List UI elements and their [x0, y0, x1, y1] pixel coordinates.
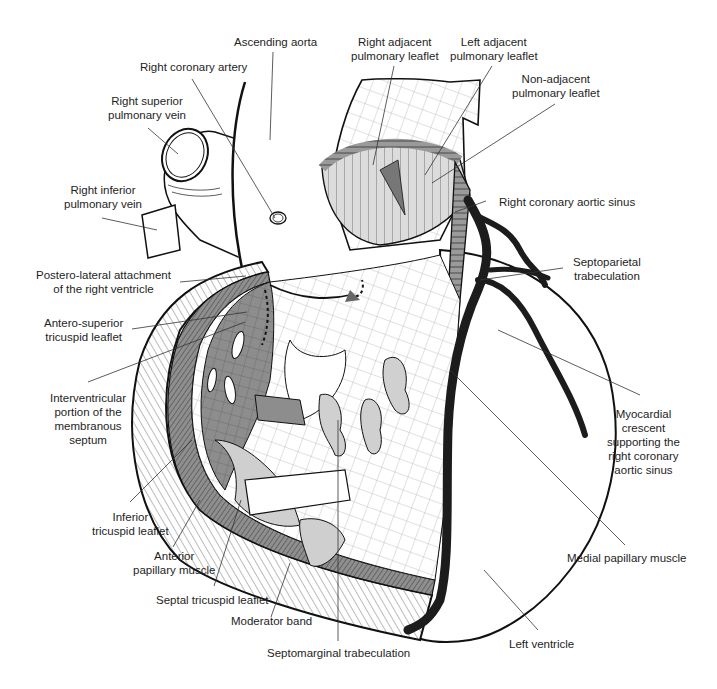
label-medial-papillary-muscle: Medial papillary muscle: [567, 551, 687, 565]
label-septal-tricuspid-leaflet: Septal tricuspid leaflet: [156, 593, 269, 607]
label-postero-lateral-attachment: Postero-lateral attachment of the right …: [36, 268, 171, 296]
label-antero-superior-tricuspid-leaflet: Antero-superior tricuspid leaflet: [44, 316, 123, 344]
label-right-adjacent-pulmonary-leaflet: Right adjacent pulmonary leaflet: [351, 35, 439, 63]
label-right-superior-pulmonary-vein: Right superior pulmonary vein: [108, 94, 186, 122]
label-right-coronary-artery: Right coronary artery: [140, 60, 247, 74]
label-myocardial-crescent: Myocardial crescent supporting the right…: [607, 407, 680, 477]
label-anterior-papillary-muscle: Anterior papillary muscle: [133, 549, 215, 577]
label-septomarginal-trabeculation: Septomarginal trabeculation: [267, 646, 410, 660]
right-inferior-pulmonary-vein: [142, 205, 180, 258]
label-interventricular-membranous-septum: Interventricular portion of the membrano…: [50, 391, 126, 447]
label-left-ventricle: Left ventricle: [509, 637, 574, 651]
label-ascending-aorta: Ascending aorta: [234, 35, 317, 49]
label-left-adjacent-pulmonary-leaflet: Left adjacent pulmonary leaflet: [450, 35, 538, 63]
label-inferior-tricuspid-leaflet: Inferior tricuspid leaflet: [92, 510, 169, 538]
label-right-inferior-pulmonary-vein: Right inferior pulmonary vein: [64, 183, 142, 211]
label-right-coronary-aortic-sinus: Right coronary aortic sinus: [499, 195, 635, 209]
label-non-adjacent-pulmonary-leaflet: Non-adjacent pulmonary leaflet: [512, 72, 600, 100]
label-septoparietal-trabeculation: Septoparietal trabeculation: [573, 255, 641, 283]
label-moderator-band: Moderator band: [231, 614, 312, 628]
